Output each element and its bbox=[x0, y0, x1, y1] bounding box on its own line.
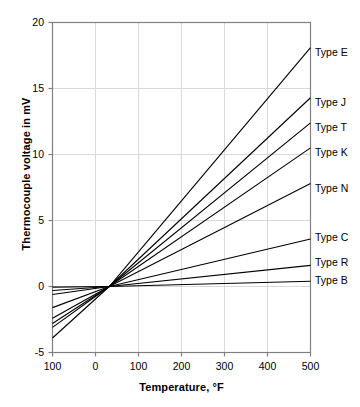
x-tick-label: 0 bbox=[76, 360, 116, 372]
y-axis-title: Thermocouple voltage in mV bbox=[20, 64, 32, 284]
x-axis-title: Temperature, °F bbox=[52, 381, 311, 393]
series-label-type-c: Type C bbox=[315, 231, 348, 243]
series-label-type-k: Type K bbox=[315, 146, 348, 158]
x-tick-label: 100 bbox=[33, 360, 73, 372]
x-tick-label: 500 bbox=[291, 360, 331, 372]
y-tick-label: 20 bbox=[14, 16, 44, 28]
series-label-type-t: Type T bbox=[315, 121, 347, 133]
y-tick-label: 5 bbox=[14, 214, 44, 226]
series-label-type-j: Type J bbox=[315, 96, 346, 108]
series-label-type-r: Type R bbox=[315, 256, 348, 268]
y-tick-label: 0 bbox=[14, 280, 44, 292]
plot-area bbox=[0, 0, 360, 407]
x-tick-label: 100 bbox=[119, 360, 159, 372]
x-tick-label: 200 bbox=[162, 360, 202, 372]
series-label-type-e: Type E bbox=[315, 46, 348, 58]
series-label-type-b: Type B bbox=[315, 274, 348, 286]
thermocouple-voltage-chart: Thermocouple voltage in mV Temperature, … bbox=[0, 0, 360, 407]
x-tick-label: 400 bbox=[248, 360, 288, 372]
series-label-type-n: Type N bbox=[315, 182, 348, 194]
y-tick-label: 10 bbox=[14, 148, 44, 160]
y-tick-label: -5 bbox=[14, 346, 44, 358]
y-tick-label: 15 bbox=[14, 82, 44, 94]
x-tick-label: 300 bbox=[205, 360, 245, 372]
